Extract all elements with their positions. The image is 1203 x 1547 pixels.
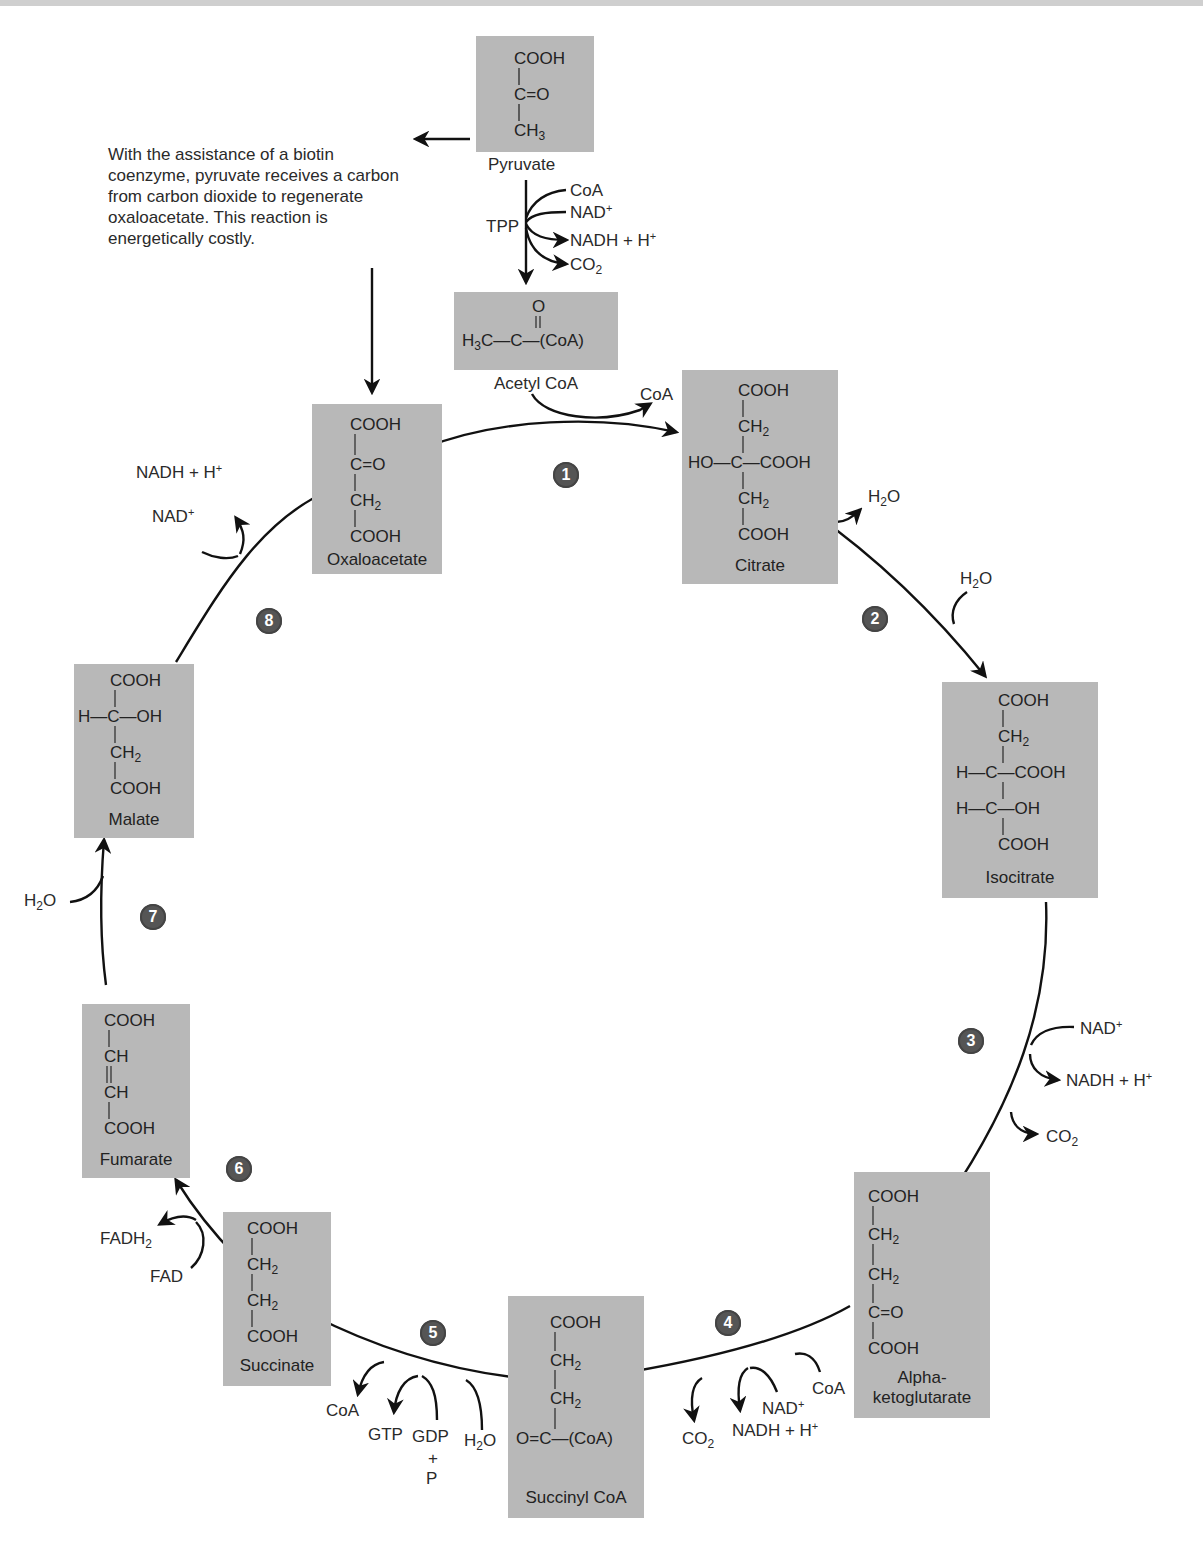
label-step8-nad: NAD+ [152,508,194,525]
label-oxaloacetate: Oxaloacetate [312,550,442,570]
label-fumarate: Fumarate [82,1150,190,1170]
formula-line: H3C—C—(CoA) [462,332,584,349]
molecule-succinyl-coa: COOH CH2 CH2 O=C—(CoA) Succinyl CoA [508,1296,644,1518]
label-step7-h2o: H2O [24,892,56,909]
label-step4-nadh: NADH + H+ [732,1422,818,1439]
label-step6-fadh2: FADH2 [100,1230,152,1247]
molecule-citrate: COOH CH2 HO—C—COOH CH2 COOH Citrate [682,370,838,584]
label-alpha-ketoglutarate-2: ketoglutarate [854,1388,990,1408]
label-step2-h2o-out: H2O [868,488,900,505]
label-step3-nad: NAD+ [1080,1020,1122,1037]
label-acetyl-coa: Acetyl CoA [494,375,578,392]
label-pdh-nadh: NADH + H+ [570,232,656,249]
arrow-step1 [424,422,676,448]
label-step1-coa: CoA [640,386,673,403]
label-step4-coa: CoA [812,1380,845,1397]
step-badge-8: 8 [256,608,282,634]
molecule-alpha-ketoglutarate: COOH CH2 CH2 C=O COOH Alpha- ketoglutara… [854,1172,990,1418]
label-step4-nad: NAD+ [762,1400,804,1417]
label-isocitrate: Isocitrate [942,868,1098,888]
step-badge-1: 1 [553,462,579,488]
label-pdh-co2: CO2 [570,256,602,273]
label-tpp: TPP [486,218,519,235]
arrow-step4 [630,1306,850,1372]
step-badge-5: 5 [420,1320,446,1346]
label-step3-nadh: NADH + H+ [1066,1072,1152,1089]
arrow-step8 [176,490,330,662]
molecule-oxaloacetate: COOH C=O CH2 COOH Oxaloacetate [312,404,442,574]
molecule-isocitrate: COOH CH2 H—C—COOH H—C—OH COOH Isocitrate [942,682,1098,898]
label-succinyl-coa: Succinyl CoA [508,1488,644,1508]
label-step5-h2o: H2O [464,1432,496,1449]
step-badge-7: 7 [140,904,166,930]
step-badge-6: 6 [226,1156,252,1182]
molecule-fumarate: COOH CH CH COOH Fumarate [82,1004,190,1178]
label-step5-coa: CoA [326,1402,359,1419]
arrow-step7 [101,840,106,985]
molecule-malate: COOH H—C—OH CH2 COOH Malate [74,664,194,838]
label-step5-gtp: GTP [368,1426,403,1443]
label-step2-h2o-in: H2O [960,570,992,587]
label-step5-p: P [426,1470,437,1487]
step-badge-4: 4 [715,1310,741,1336]
label-step6-fad: FAD [150,1268,183,1285]
label-pdh-nad: NAD+ [570,204,612,221]
carboxylation-note: With the assistance of a biotin coenzyme… [108,144,408,249]
label-step3-co2: CO2 [1046,1128,1078,1145]
molecule-acetyl-coa: O H3C—C—(CoA) [454,292,618,370]
label-citrate: Citrate [682,556,838,576]
label-pyruvate: Pyruvate [488,156,555,173]
label-step5-gdp: GDP [412,1428,449,1445]
molecule-pyruvate: COOH C=O CH3 [476,36,594,152]
label-step8-nadh: NADH + H+ [136,464,222,481]
label-alpha-ketoglutarate-1: Alpha- [854,1368,990,1388]
label-succinate: Succinate [223,1356,331,1376]
arrow-step5 [310,1314,520,1378]
molecule-succinate: COOH CH2 CH2 COOH Succinate [223,1212,331,1386]
step-badge-2: 2 [862,606,888,632]
label-pdh-coa: CoA [570,182,603,199]
label-malate: Malate [74,810,194,830]
label-step5-plus: + [428,1450,438,1467]
step-badge-3: 3 [958,1028,984,1054]
label-step4-co2: CO2 [682,1430,714,1447]
